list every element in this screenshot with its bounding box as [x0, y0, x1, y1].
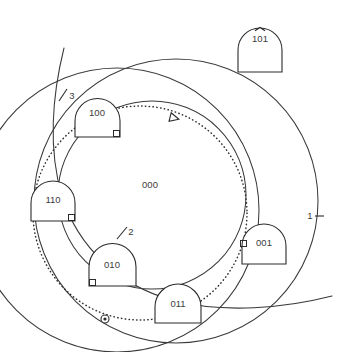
- venn-diagram-figure: 1 2 3 000 101 100: [0, 0, 337, 352]
- node-100-label: 100: [89, 107, 105, 118]
- circle-label-3-group: 3: [59, 89, 75, 101]
- arrow-marker: [169, 113, 180, 124]
- region-label-000: 000: [142, 179, 158, 190]
- circle-label-3-tick: [59, 89, 67, 101]
- node-011[interactable]: 011: [155, 284, 201, 323]
- node-010[interactable]: 010: [89, 244, 136, 287]
- circle-label-2: 2: [128, 226, 133, 237]
- node-101-label: 101: [252, 33, 268, 44]
- node-010-label: 010: [104, 259, 120, 270]
- circle-label-2-tick: [117, 227, 127, 239]
- origin-marker: [101, 315, 109, 323]
- circle-label-2-group: 2: [117, 226, 134, 239]
- circle-label-3: 3: [69, 90, 74, 101]
- node-001[interactable]: 001: [241, 224, 287, 264]
- node-100[interactable]: 100: [75, 99, 120, 137]
- node-001-label: 001: [256, 237, 272, 248]
- circle-label-1: 1: [307, 210, 312, 221]
- node-101[interactable]: 101: [238, 28, 282, 73]
- diagram-canvas: 1 2 3 000 101 100: [0, 0, 337, 352]
- circle-label-1-group: 1: [307, 210, 324, 221]
- node-110[interactable]: 110: [31, 181, 75, 221]
- node-110-label: 110: [45, 194, 60, 205]
- node-011-label: 011: [170, 298, 185, 309]
